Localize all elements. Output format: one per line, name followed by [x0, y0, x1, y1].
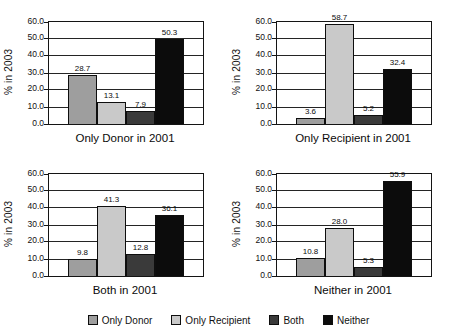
x-axis-title: Neither in 2001 [276, 284, 430, 296]
y-tick-mark [272, 190, 276, 191]
y-tick-mark [272, 174, 276, 175]
y-tick-mark [272, 259, 276, 260]
y-tick-label: 60.0 [244, 169, 272, 178]
y-tick-mark [272, 38, 276, 39]
y-tick-mark [44, 259, 48, 260]
plot-area: 3.658.75.232.4 [276, 21, 432, 125]
y-tick-label: 10.0 [16, 254, 44, 263]
y-tick-label: 0.0 [244, 271, 272, 280]
bar-only-donor [296, 118, 325, 124]
y-tick-labels: 60.050.040.030.020.010.00.0 [16, 21, 44, 123]
y-tick-label: 60.0 [16, 17, 44, 26]
legend-item-only-recipient: Only Recipient [171, 315, 250, 326]
y-tick-mark [272, 124, 276, 125]
bar-value-label: 28.0 [324, 217, 356, 226]
legend: Only Donor Only Recipient Both Neither [0, 309, 457, 331]
y-tick-label: 10.0 [16, 102, 44, 111]
gridline [277, 55, 431, 56]
y-tick-label: 40.0 [16, 50, 44, 59]
x-axis-title: Only Recipient in 2001 [276, 132, 430, 144]
bar-both [126, 254, 155, 276]
legend-swatch-both [269, 315, 279, 325]
y-tick-mark [44, 38, 48, 39]
x-axis-title: Only Donor in 2001 [48, 132, 202, 144]
bar-only-recipient [97, 102, 126, 124]
bar-value-label: 50.3 [154, 28, 186, 37]
bar-neither [155, 39, 184, 125]
y-tick-labels: 60.050.040.030.020.010.00.0 [244, 21, 272, 123]
y-tick-label: 10.0 [244, 102, 272, 111]
bar-value-label: 28.7 [67, 64, 99, 73]
chart-only-recipient-in-2001: % in 2003 60.050.040.030.020.010.00.0 3.… [228, 5, 457, 155]
y-tick-label: 50.0 [16, 185, 44, 194]
y-axis-title: % in 2003 [3, 21, 16, 123]
bar-both [354, 115, 383, 124]
bar-value-label: 9.8 [67, 248, 99, 257]
y-tick-mark [44, 241, 48, 242]
y-tick-label: 40.0 [244, 202, 272, 211]
chart-only-donor-in-2001: % in 2003 60.050.040.030.020.010.00.0 28… [0, 5, 228, 155]
y-tick-label: 50.0 [244, 185, 272, 194]
legend-swatch-only-donor [88, 315, 98, 325]
y-tick-label: 0.0 [16, 271, 44, 280]
y-tick-mark [272, 241, 276, 242]
bar-value-label: 3.6 [295, 107, 327, 116]
y-tick-mark [272, 73, 276, 74]
y-tick-mark [44, 22, 48, 23]
plot-area: 9.841.312.836.1 [48, 173, 204, 277]
bar-neither [155, 215, 184, 276]
y-tick-mark [44, 276, 48, 277]
y-tick-label: 30.0 [244, 68, 272, 77]
y-axis-title: % in 2003 [231, 173, 244, 275]
y-tick-mark [272, 276, 276, 277]
legend-item-both: Both [269, 315, 304, 326]
bar-only-recipient [97, 206, 126, 276]
y-tick-mark [44, 225, 48, 226]
y-tick-label: 10.0 [244, 254, 272, 263]
chart-neither-in-2001: % in 2003 60.050.040.030.020.010.00.0 10… [228, 157, 457, 307]
y-tick-mark [44, 124, 48, 125]
y-tick-label: 30.0 [244, 220, 272, 229]
y-tick-label: 30.0 [16, 220, 44, 229]
y-tick-labels: 60.050.040.030.020.010.00.0 [16, 173, 44, 275]
y-tick-label: 50.0 [16, 33, 44, 42]
bar-neither [383, 181, 412, 276]
y-axis-title: % in 2003 [231, 21, 244, 123]
y-tick-label: 0.0 [244, 119, 272, 128]
y-tick-label: 20.0 [244, 236, 272, 245]
legend-swatch-neither [323, 315, 333, 325]
legend-label-both: Both [283, 315, 304, 326]
y-tick-mark [44, 89, 48, 90]
y-tick-mark [272, 89, 276, 90]
bar-value-label: 32.4 [382, 58, 414, 67]
bar-value-label: 7.9 [125, 100, 157, 109]
y-tick-label: 60.0 [244, 17, 272, 26]
legend-label-only-donor: Only Donor [102, 315, 153, 326]
y-tick-mark [272, 225, 276, 226]
legend-swatch-only-recipient [171, 315, 181, 325]
bar-value-label: 55.9 [382, 170, 414, 179]
y-axis-title: % in 2003 [3, 173, 16, 275]
bar-only-recipient [325, 24, 354, 124]
bar-only-recipient [325, 228, 354, 276]
legend-item-only-donor: Only Donor [88, 315, 153, 326]
gridline [277, 38, 431, 39]
bar-neither [383, 69, 412, 124]
plot-area: 10.828.05.355.9 [276, 173, 432, 277]
y-tick-label: 60.0 [16, 169, 44, 178]
chart-both-in-2001: % in 2003 60.050.040.030.020.010.00.0 9.… [0, 157, 228, 307]
gridline [49, 190, 203, 191]
bar-only-donor [68, 75, 97, 124]
y-tick-mark [44, 174, 48, 175]
y-tick-label: 0.0 [16, 119, 44, 128]
x-axis-title: Both in 2001 [48, 284, 202, 296]
y-tick-label: 40.0 [16, 202, 44, 211]
y-tick-mark [272, 55, 276, 56]
y-tick-label: 20.0 [16, 236, 44, 245]
legend-item-neither: Neither [323, 315, 369, 326]
bar-both [126, 111, 155, 124]
y-tick-mark [44, 55, 48, 56]
bar-value-label: 13.1 [96, 91, 128, 100]
bar-value-label: 36.1 [154, 204, 186, 213]
y-tick-mark [44, 190, 48, 191]
